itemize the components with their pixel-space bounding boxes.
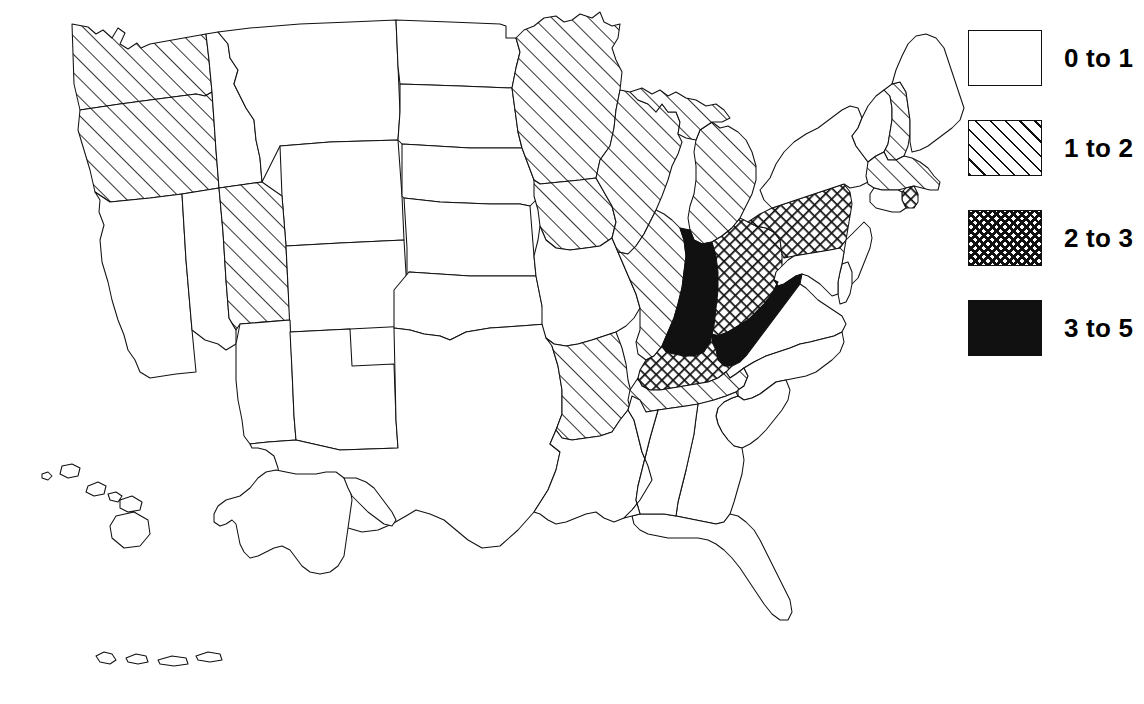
choropleth-figure: 0 to 1 1 to 2 2 to 3 3 to 5 (0, 0, 1144, 704)
legend-label-0-to-1: 0 to 1 (1064, 43, 1133, 74)
legend-row-0-to-1[interactable]: 0 to 1 (968, 26, 1133, 90)
legend-row-2-to-3[interactable]: 2 to 3 (968, 206, 1133, 270)
legend-label-3-to-5: 3 to 5 (1064, 313, 1133, 344)
map-legend: 0 to 1 1 to 2 2 to 3 3 to 5 (968, 20, 1144, 380)
legend-row-3-to-5[interactable]: 3 to 5 (968, 296, 1133, 360)
state-hawaii[interactable] (42, 464, 150, 548)
state-california[interactable] (95, 192, 196, 378)
state-alaska[interactable] (214, 470, 352, 574)
aleutian-islands[interactable] (96, 652, 222, 666)
states-layer (42, 12, 964, 666)
legend-swatch-3-to-5 (968, 300, 1042, 356)
us-map (0, 0, 1000, 704)
legend-label-2-to-3: 2 to 3 (1064, 223, 1133, 254)
state-south-dakota[interactable] (398, 84, 522, 148)
state-florida[interactable] (632, 514, 792, 620)
state-new-york[interactable] (760, 106, 872, 208)
state-north-dakota[interactable] (396, 20, 520, 88)
state-new-mexico[interactable] (290, 329, 398, 450)
legend-row-1-to-2[interactable]: 1 to 2 (968, 116, 1133, 180)
state-arizona[interactable] (236, 320, 296, 444)
legend-swatch-1-to-2 (968, 120, 1042, 176)
state-utah[interactable] (219, 182, 290, 330)
state-nebraska[interactable] (402, 144, 540, 206)
state-colorado[interactable] (286, 240, 409, 332)
state-connecticut[interactable] (870, 188, 906, 212)
legend-swatch-0-to-1 (968, 30, 1042, 86)
state-massachusetts[interactable] (866, 152, 940, 190)
state-oregon[interactable] (78, 92, 219, 202)
state-wyoming[interactable] (280, 140, 404, 246)
legend-label-1-to-2: 1 to 2 (1064, 133, 1133, 164)
legend-swatch-2-to-3 (968, 210, 1042, 266)
